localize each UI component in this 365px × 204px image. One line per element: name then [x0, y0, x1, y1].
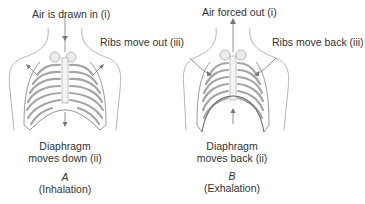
diaphragm-line2-b: moves back (ii) [192, 152, 272, 164]
diaphragm-line2-a: moves down (ii) [25, 152, 105, 164]
ribs-move-back-label: Ribs move back (iii) [272, 36, 364, 48]
figure-letter-a: A [25, 171, 105, 183]
diaphragm-line1-b: Diaphragm [192, 140, 272, 152]
diaphragm-line1-a: Diaphragm [25, 140, 105, 152]
figure-letter-b: B [192, 170, 272, 182]
ribs-move-out-label: Ribs move out (iii) [100, 36, 184, 48]
diaphragm-label-b: Diaphragm moves back (ii) [192, 140, 272, 164]
figure-caption-inhalation: (Inhalation) [25, 183, 105, 195]
air-drawn-in-label: Air is drawn in (i) [32, 8, 110, 20]
air-forced-out-label: Air forced out (i) [202, 6, 277, 18]
figure-caption-exhalation: (Exhalation) [192, 182, 272, 194]
diaphragm-label-a: Diaphragm moves down (ii) [25, 140, 105, 164]
